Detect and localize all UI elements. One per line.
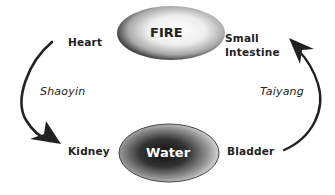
small-intestine-label-line2: Intestine [225,46,280,59]
bladder-label: Bladder [227,145,274,158]
kidney-label: Kidney [68,145,110,158]
shaoyin-label: Shaoyin [40,85,85,98]
taiyang-arrow [284,50,320,150]
small-intestine-label-line1: Small [225,32,259,45]
taiyang-label: Taiyang [260,85,304,98]
water-label: Water [146,145,190,160]
taiyang-arrowhead-icon [289,38,314,64]
fire-label: FIRE [150,25,183,40]
heart-label: Heart [68,36,102,49]
